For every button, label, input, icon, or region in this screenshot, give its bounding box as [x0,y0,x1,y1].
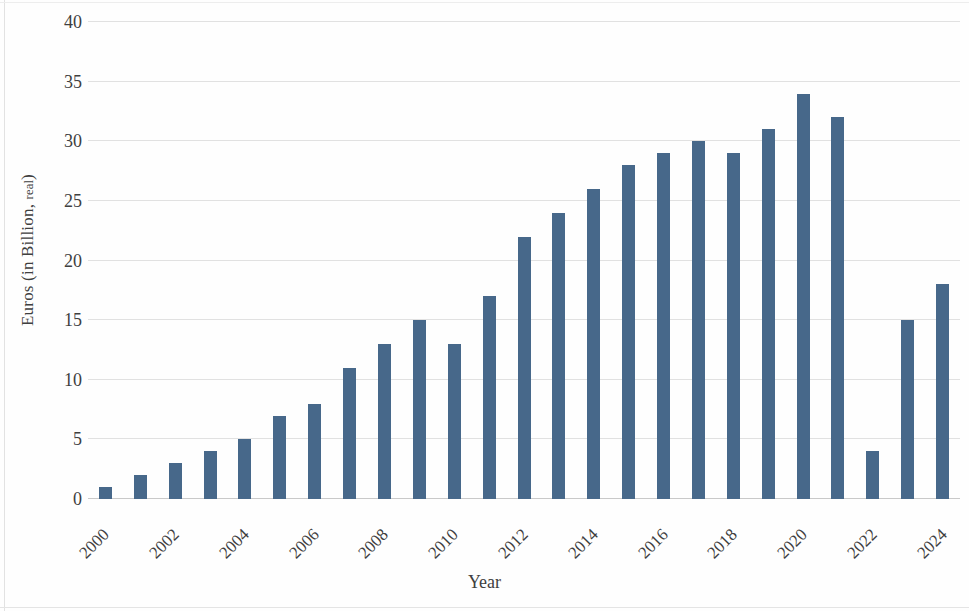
bar [238,439,251,499]
x-tick-label: 2022 [843,525,881,563]
x-tick-label: 2006 [285,525,323,563]
bar [692,141,705,499]
page-edge-artifact-top [0,2,969,3]
x-tick-label: 2018 [704,525,742,563]
y-tick-label: 10 [36,369,82,390]
x-tick-label: 2014 [564,525,602,563]
bar [134,475,147,499]
y-tick-label: 40 [36,12,82,33]
bar [831,117,844,499]
x-axis-title: Year [0,572,969,593]
y-tick-label: 5 [36,429,82,450]
x-tick-label: 2012 [494,525,532,563]
x-tick-label: 2004 [215,525,253,563]
bar [378,344,391,499]
x-tick-label: 2002 [145,525,183,563]
plot-area [88,22,960,499]
bar [552,213,565,499]
bar [901,320,914,499]
x-tick-label: 2000 [76,525,114,563]
bar [413,320,426,499]
bar [483,296,496,499]
y-tick-label: 20 [36,250,82,271]
bar [273,416,286,499]
bar [448,344,461,499]
y-tick-label: 15 [36,310,82,331]
bar [518,237,531,499]
bar [343,368,356,499]
y-tick-label: 0 [36,489,82,510]
bar [762,129,775,499]
x-tick-label: 2024 [913,525,951,563]
bar [866,451,879,499]
bar [797,94,810,499]
x-axis-tick-labels: 2000200220042006200820102012201420162018… [88,505,960,575]
bar-chart-figure: Euros (in Billion, real) 051015202530354… [0,0,969,611]
bar [587,189,600,499]
x-tick-label: 2008 [355,525,393,563]
x-tick-label: 2016 [634,525,672,563]
bar [308,404,321,499]
x-tick-label: 2010 [425,525,463,563]
bar [936,284,949,499]
bar [99,487,112,499]
bar-series [88,22,960,499]
y-tick-label: 35 [36,71,82,92]
bar [622,165,635,499]
bar [657,153,670,499]
page-edge-artifact-left [4,0,5,611]
y-tick-label: 30 [36,131,82,152]
y-axis-tick-labels: 0510152025303540 [22,22,82,499]
page-edge-artifact-bottom [0,607,969,608]
bar [727,153,740,499]
y-tick-label: 25 [36,190,82,211]
bar [204,451,217,499]
bar [169,463,182,499]
x-tick-label: 2020 [773,525,811,563]
